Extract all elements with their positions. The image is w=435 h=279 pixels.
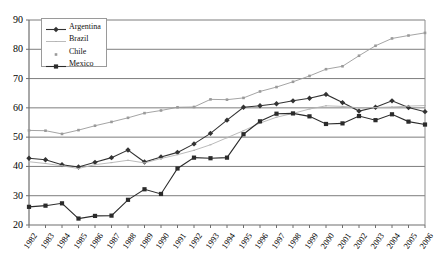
data-point xyxy=(391,37,394,40)
data-point xyxy=(192,156,196,160)
data-point xyxy=(160,109,163,112)
data-point xyxy=(325,68,328,71)
data-point xyxy=(406,120,410,124)
legend-item-brazil[interactable]: Brazil xyxy=(42,33,106,44)
data-point xyxy=(225,156,229,160)
data-point xyxy=(308,75,311,78)
data-point xyxy=(111,162,113,163)
legend-label: Chile xyxy=(69,46,86,57)
data-point xyxy=(274,101,279,106)
data-point xyxy=(45,163,47,164)
data-point xyxy=(43,204,47,208)
data-point xyxy=(324,122,328,126)
data-point xyxy=(143,112,146,115)
data-point xyxy=(109,214,113,218)
y-axis-tick-label: 60 xyxy=(1,102,23,113)
data-point xyxy=(28,161,30,162)
data-point xyxy=(275,86,278,89)
data-point xyxy=(408,106,410,107)
data-point xyxy=(357,114,361,118)
data-point xyxy=(142,187,146,191)
legend-marker-icon xyxy=(45,58,67,69)
data-point xyxy=(226,98,229,101)
data-point xyxy=(160,158,162,159)
legend-label: Brazil xyxy=(69,33,89,44)
data-point xyxy=(159,192,163,196)
data-point xyxy=(340,121,344,125)
legend-item-mexico[interactable]: Mexico xyxy=(42,58,106,69)
data-point xyxy=(356,108,361,113)
y-axis-tick-label: 90 xyxy=(1,14,23,25)
data-point xyxy=(27,205,31,209)
data-point xyxy=(423,122,427,126)
data-point xyxy=(127,117,130,120)
data-point xyxy=(373,118,377,122)
legend-label: Mexico xyxy=(69,58,93,69)
data-point xyxy=(291,111,295,115)
data-point xyxy=(110,121,113,124)
data-point xyxy=(60,201,64,205)
chart-legend: ArgentinaBrazilChileMexico xyxy=(41,18,107,67)
data-point xyxy=(144,162,146,163)
data-point xyxy=(126,198,130,202)
data-point xyxy=(292,80,295,83)
data-point xyxy=(193,106,196,109)
data-point xyxy=(307,114,311,118)
data-point xyxy=(374,44,377,47)
data-point xyxy=(307,95,312,100)
data-point xyxy=(325,105,327,106)
data-point xyxy=(323,92,328,97)
legend-marker-icon xyxy=(45,33,67,44)
data-point xyxy=(258,119,262,123)
data-point xyxy=(276,117,278,118)
data-point xyxy=(193,150,195,151)
y-axis-tick-label: 30 xyxy=(1,190,23,201)
data-point xyxy=(208,156,212,160)
data-point xyxy=(290,98,295,103)
data-point xyxy=(78,168,80,169)
data-point xyxy=(242,97,245,100)
data-point xyxy=(424,105,426,106)
data-point xyxy=(375,107,377,108)
y-axis-tick-label: 50 xyxy=(1,131,23,142)
data-point xyxy=(176,106,179,109)
data-point xyxy=(389,98,394,103)
data-point xyxy=(43,157,48,162)
data-point xyxy=(341,65,344,68)
data-point xyxy=(274,112,278,116)
data-point xyxy=(210,144,212,145)
legend-label: Argentina xyxy=(69,21,101,32)
data-point xyxy=(109,155,114,160)
data-point xyxy=(209,98,212,101)
data-point xyxy=(358,54,361,57)
data-point xyxy=(94,164,96,165)
data-point xyxy=(407,34,410,37)
legend-item-argentina[interactable]: Argentina xyxy=(42,21,106,32)
data-point xyxy=(259,90,262,93)
data-point xyxy=(127,160,129,161)
data-point xyxy=(28,129,31,132)
data-point xyxy=(342,106,344,107)
data-point xyxy=(177,154,179,155)
data-point xyxy=(243,130,245,131)
data-point xyxy=(61,133,64,136)
y-axis-tick-label: 20 xyxy=(1,219,23,230)
legend-marker-icon xyxy=(45,21,67,32)
data-point xyxy=(340,100,345,105)
data-point xyxy=(241,132,245,136)
data-point xyxy=(309,109,311,110)
data-point xyxy=(94,124,97,127)
legend-item-chile[interactable]: Chile xyxy=(42,46,106,57)
y-axis-tick-label: 70 xyxy=(1,73,23,84)
data-point xyxy=(175,166,179,170)
data-point xyxy=(191,141,196,146)
data-point xyxy=(93,214,97,218)
legend-marker-icon xyxy=(45,46,67,57)
data-point xyxy=(61,165,63,166)
y-axis-tick-label: 80 xyxy=(1,43,23,54)
y-axis-tick-label: 40 xyxy=(1,160,23,171)
data-point xyxy=(422,109,427,114)
data-point xyxy=(26,156,31,161)
data-point xyxy=(358,107,360,108)
